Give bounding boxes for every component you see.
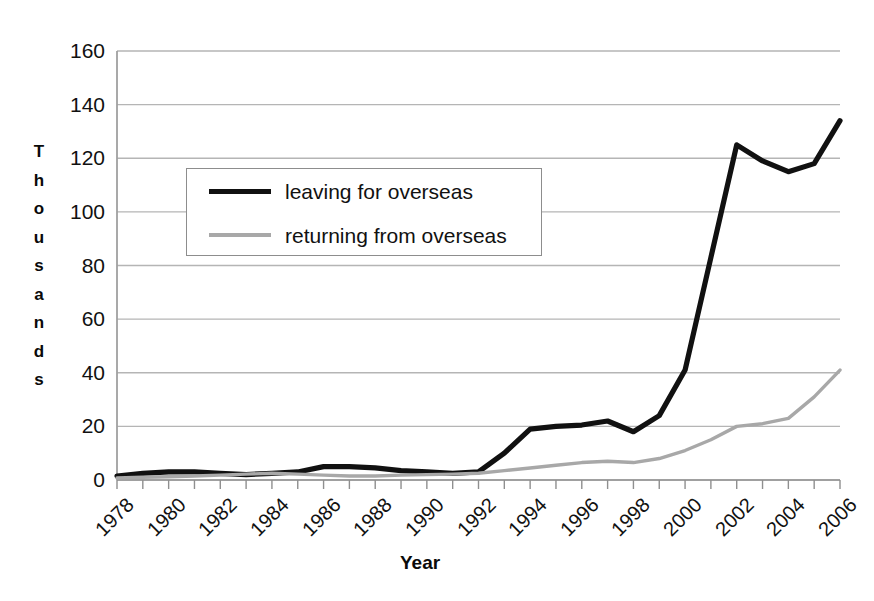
legend-swatch-icon-dark xyxy=(209,189,271,194)
x-axis-ticks xyxy=(117,480,840,489)
series-line-returning xyxy=(117,370,840,478)
legend-swatch-icon-light xyxy=(209,233,271,237)
line-chart: Thousands 020406080100120140160 leaving … xyxy=(0,0,874,601)
legend-item-leaving: leaving for overseas xyxy=(187,169,541,213)
x-axis-title: Year xyxy=(400,552,440,574)
legend-label-leaving: leaving for overseas xyxy=(285,181,473,202)
legend: leaving for overseas returning from over… xyxy=(186,168,542,256)
legend-label-returning: returning from overseas xyxy=(285,225,507,246)
legend-item-returning: returning from overseas xyxy=(187,213,541,257)
